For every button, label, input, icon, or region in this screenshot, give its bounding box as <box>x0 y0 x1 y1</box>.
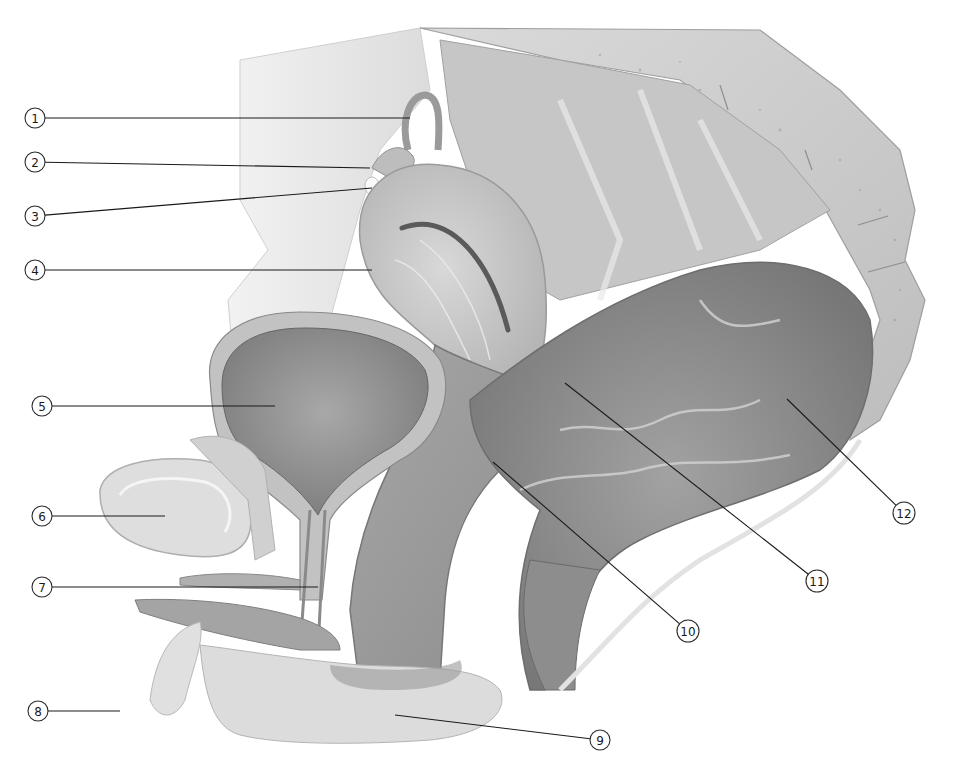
fallopian-tube <box>405 95 439 150</box>
labia-majora <box>150 622 201 715</box>
callout-number: 4 <box>31 264 39 278</box>
callout-number: 8 <box>34 705 42 719</box>
callout-number: 6 <box>38 510 46 524</box>
callout-number: 9 <box>596 734 604 748</box>
callout-8: 8 <box>28 701 120 721</box>
perineum <box>200 645 502 743</box>
clitoris-body <box>180 574 300 590</box>
callout-number: 11 <box>809 575 824 589</box>
callout-number: 1 <box>31 112 39 126</box>
labia-minora <box>135 599 340 650</box>
callout-number: 3 <box>31 210 39 224</box>
callout-number: 5 <box>38 400 46 414</box>
pelvis-diagram: 123456789101112 <box>0 0 953 780</box>
callout-number: 10 <box>680 625 695 639</box>
callout-number: 7 <box>38 581 46 595</box>
callout-number: 12 <box>896 507 911 521</box>
callout-number: 2 <box>31 156 39 170</box>
